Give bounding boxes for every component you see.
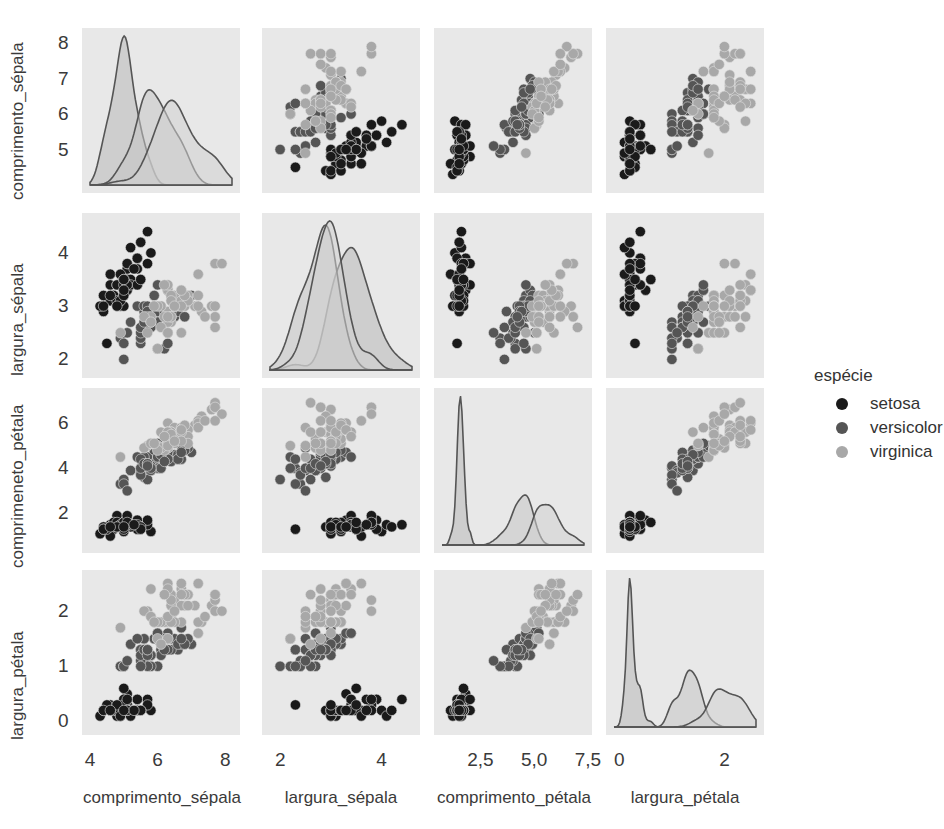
x-tick-label: 2 — [719, 749, 730, 771]
pairplot-figure: comprimento_sépala largura_sépala compri… — [0, 0, 944, 829]
x-tick-label: 8 — [220, 749, 231, 771]
y-tick-label: 3 — [58, 295, 69, 317]
y-tick-label: 5 — [58, 139, 69, 161]
y-tick-label: 7 — [58, 68, 69, 90]
y-tick-label: 2 — [58, 600, 69, 622]
x-tick-label: 5,0 — [521, 749, 547, 771]
legend-item-virginica: virginica — [806, 440, 944, 464]
x-tick-label: 0 — [614, 749, 625, 771]
x-tick-label: 6 — [152, 749, 163, 771]
y-axis-label-3: largura_pétala — [8, 631, 28, 740]
legend-marker-versicolor-icon — [836, 422, 848, 434]
x-axis-label-0: comprimento_sépala — [72, 788, 252, 808]
legend-label: setosa — [870, 394, 920, 414]
scatter-panel-comprimento_sépala-vs-comprimeneto_pétala — [82, 388, 240, 553]
scatter-panel-largura_pétala-vs-comprimeneto_pétala — [606, 388, 764, 553]
legend-title: espécie — [814, 366, 944, 386]
y-tick-label: 4 — [58, 242, 69, 264]
y-axis-label-1: largura_sépala — [8, 264, 28, 376]
kde-panel-comprimeneto_pétala — [434, 388, 592, 553]
kde-panel-largura_sépala — [262, 213, 420, 378]
kde-panel-largura_pétala — [606, 570, 764, 735]
legend-marker-virginica-icon — [836, 446, 848, 458]
legend-item-versicolor: versicolor — [806, 416, 944, 440]
scatter-panel-comprimento_sépala-vs-largura_pétala — [82, 570, 240, 735]
scatter-panel-comprimeneto_pétala-vs-largura_pétala — [434, 570, 592, 735]
scatter-panel-largura_pétala-vs-largura_sépala — [606, 213, 764, 378]
y-tick-label: 1 — [58, 655, 69, 677]
x-tick-label: 2 — [275, 749, 286, 771]
y-tick-label: 2 — [58, 502, 69, 524]
x-axis-label-3: largura_pétala — [600, 788, 770, 808]
scatter-panel-largura_sépala-vs-comprimeneto_pétala — [262, 388, 420, 553]
x-tick-label: 4 — [85, 749, 96, 771]
y-tick-label: 2 — [58, 348, 69, 370]
scatter-panel-comprimeneto_pétala-vs-comprimento_sépala — [434, 28, 592, 193]
legend-marker-setosa-icon — [836, 398, 848, 410]
legend: espécie setosa versicolor virginica — [806, 366, 944, 464]
y-axis-label-0: comprimento_sépala — [8, 42, 28, 200]
x-tick-label: 4 — [376, 749, 387, 771]
legend-label: virginica — [870, 442, 932, 462]
y-tick-label: 8 — [58, 32, 69, 54]
y-tick-label: 6 — [58, 103, 69, 125]
y-axis-label-2: comprimeneto_pétala — [8, 405, 28, 568]
y-tick-label: 4 — [58, 457, 69, 479]
x-tick-label: 7,5 — [575, 749, 601, 771]
scatter-panel-largura_sépala-vs-comprimento_sépala — [262, 28, 420, 193]
x-axis-label-1: largura_sépala — [256, 788, 426, 808]
scatter-panel-largura_pétala-vs-comprimento_sépala — [606, 28, 764, 193]
y-tick-label: 0 — [58, 710, 69, 732]
x-tick-label: 2,5 — [467, 749, 493, 771]
legend-item-setosa: setosa — [806, 392, 944, 416]
scatter-panel-comprimento_sépala-vs-largura_sépala — [82, 213, 240, 378]
y-tick-label: 6 — [58, 412, 69, 434]
scatter-panel-largura_sépala-vs-largura_pétala — [262, 570, 420, 735]
scatter-panel-comprimeneto_pétala-vs-largura_sépala — [434, 213, 592, 378]
x-axis-label-2: comprimento_pétala — [424, 788, 604, 808]
legend-label: versicolor — [870, 418, 943, 438]
kde-panel-comprimento_sépala — [82, 28, 240, 193]
